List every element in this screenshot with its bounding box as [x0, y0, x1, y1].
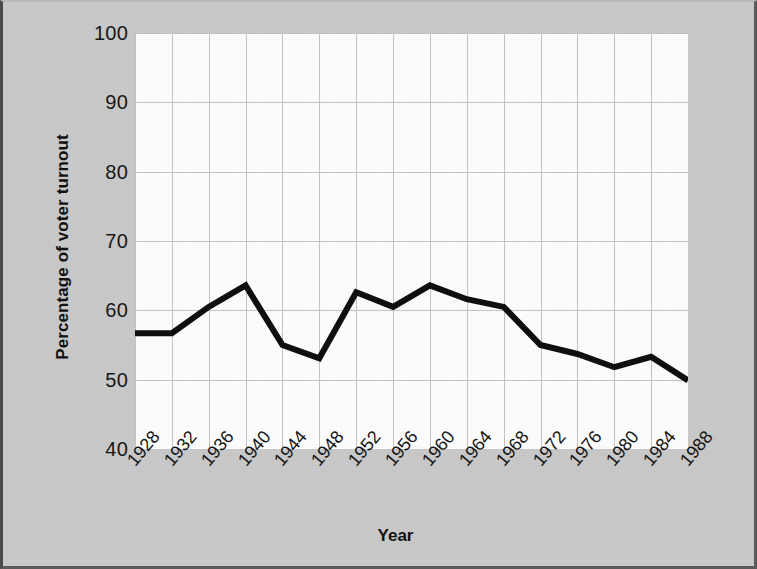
chart-page: 405060708090100 Percentage of voter turn… [0, 0, 757, 569]
x-axis-title: Year [3, 526, 757, 546]
x-axis-tick-labels: 1928193219361940194419481952195619601964… [3, 2, 757, 569]
